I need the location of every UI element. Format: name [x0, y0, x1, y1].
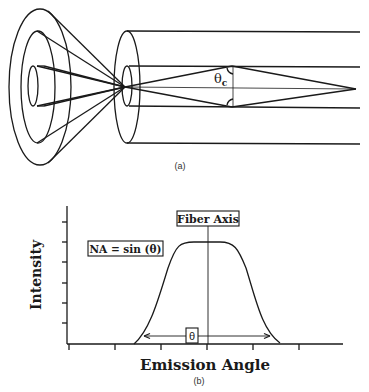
theta-label: θ: [189, 330, 195, 342]
critical-angle-arc-top: [227, 68, 233, 74]
ray-segment: [125, 87, 232, 107]
core-bottom-edge: [129, 106, 360, 108]
light-cone-diagram: [9, 9, 125, 165]
optical-fiber: [114, 31, 360, 144]
intensity-chart: [62, 206, 343, 350]
figure: θc (a) Fiber Axis: [0, 0, 369, 392]
critical-angle-arc-bottom: [227, 99, 233, 105]
core-top-edge: [129, 66, 360, 67]
y-axis-label: Intensity: [28, 239, 44, 310]
x-axis-label: Emission Angle: [140, 356, 270, 374]
inner-cone-ring: [28, 66, 38, 106]
ray-segment: [232, 89, 356, 107]
caption-a: (a): [175, 161, 186, 171]
emission-curve: [134, 242, 280, 344]
ray-segment: [232, 66, 356, 89]
critical-angle-label: θc: [214, 71, 228, 88]
cladding-top-edge: [127, 31, 360, 32]
x-ticks: [69, 344, 299, 350]
caption-b: (b): [194, 376, 205, 386]
na-formula: NA = sin (θ): [90, 243, 162, 255]
fiber-axis-label: Fiber Axis: [177, 213, 239, 226]
fiber-axis-line: [127, 87, 355, 89]
cladding-bottom-edge: [127, 143, 360, 144]
y-ticks: [62, 222, 67, 323]
